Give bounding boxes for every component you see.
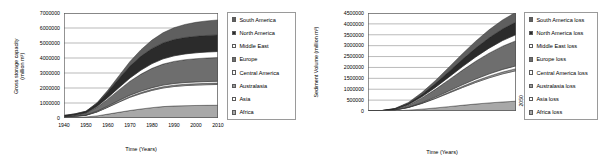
x-tick-label: 2010 <box>206 122 230 128</box>
legend-swatch-icon <box>232 17 236 21</box>
y-tick-label: 3500000 <box>324 32 364 38</box>
legend-item-label: North America loss <box>536 30 583 36</box>
y-tick-label: 1000000 <box>324 86 364 92</box>
figure-two-stacked-area-charts: Gross storage capacity (million m³) 0100… <box>0 0 599 164</box>
y-tick-label: 1000000 <box>20 100 60 106</box>
right-y-axis-label-text: Sediment Volume (million m³) <box>313 12 319 112</box>
y-tick-label: 4000000 <box>20 55 60 61</box>
x-tick-label: 1940 <box>52 122 76 128</box>
left-plot-area <box>64 13 218 118</box>
legend-item-label: Europe <box>239 56 257 62</box>
legend-item-middle-east[interactable]: Middle East <box>228 40 295 53</box>
y-tick-label: 0 <box>324 108 364 114</box>
legend-item-north-america-loss[interactable]: North America loss <box>525 26 597 39</box>
legend-item-label: North America <box>239 30 274 36</box>
legend-swatch-icon <box>529 97 533 101</box>
legend-item-label: Africa <box>239 109 253 115</box>
y-tick-label: 2000000 <box>20 85 60 91</box>
legend-item-label: South America loss <box>536 17 584 23</box>
legend-swatch-icon <box>529 110 533 114</box>
x-tick-label: 1980 <box>140 122 164 128</box>
y-tick-label: 4000000 <box>324 21 364 27</box>
legend-item-label: Middle East <box>239 43 268 49</box>
legend-swatch-icon <box>529 31 533 35</box>
x-tick-label: 1970 <box>118 122 142 128</box>
legend-item-africa[interactable]: Africa <box>228 106 295 119</box>
right-x-axis-label: Time (Years) <box>368 149 516 155</box>
legend-item-label: South America <box>239 17 275 23</box>
legend-swatch-icon <box>232 31 236 35</box>
legend-item-central-america[interactable]: Central America <box>228 66 295 79</box>
legend-item-asia[interactable]: Asia <box>228 93 295 106</box>
y-tick-label: 500000 <box>324 97 364 103</box>
x-tick-label: 1990 <box>162 122 186 128</box>
legend-swatch-icon <box>529 84 533 88</box>
left-y-axis-label-line1: Gross storage capacity <box>13 13 19 118</box>
left-x-axis-label: Time (Years) <box>64 146 218 152</box>
chart-panel-right: Sediment Volume (million m³) 05000001000… <box>300 0 599 164</box>
legend-swatch-icon <box>529 57 533 61</box>
x-tick-label: 1950 <box>74 122 98 128</box>
legend-item-label: Central America <box>239 70 279 76</box>
legend-item-australasia-loss[interactable]: Australasia loss <box>525 79 597 92</box>
legend-item-label: Middle East loss <box>536 43 577 49</box>
legend-item-label: Asia <box>239 96 250 102</box>
y-tick-label: 4500000 <box>324 10 364 16</box>
legend-item-label: Africa loss <box>536 109 562 115</box>
legend-swatch-icon <box>529 70 533 74</box>
legend-item-south-america[interactable]: South America <box>228 13 295 26</box>
legend-swatch-icon <box>232 97 236 101</box>
y-tick-label: 7000000 <box>20 10 60 16</box>
left-legend: South AmericaNorth AmericaMiddle EastEur… <box>227 12 296 120</box>
right-y-axis-label: Sediment Volume (million m³) <box>313 12 319 112</box>
legend-item-australasia[interactable]: Australasia <box>228 79 295 92</box>
right-plot-area <box>368 13 516 111</box>
y-tick-label: 3000000 <box>324 42 364 48</box>
y-tick-label: 1500000 <box>324 75 364 81</box>
legend-item-north-america[interactable]: North America <box>228 26 295 39</box>
legend-item-asia-loss[interactable]: Asia loss <box>525 93 597 106</box>
legend-item-label: Australasia <box>239 83 267 89</box>
right-legend: South America lossNorth America lossMidd… <box>524 12 598 120</box>
y-tick-label: 0 <box>20 115 60 121</box>
legend-item-label: Central America loss <box>536 70 587 76</box>
legend-item-africa-loss[interactable]: Africa loss <box>525 106 597 119</box>
legend-item-europe-loss[interactable]: Europe loss <box>525 53 597 66</box>
x-tick-label: 1960 <box>96 122 120 128</box>
legend-swatch-icon <box>232 84 236 88</box>
legend-item-south-america-loss[interactable]: South America loss <box>525 13 597 26</box>
y-tick-label: 2500000 <box>324 53 364 59</box>
legend-item-europe[interactable]: Europe <box>228 53 295 66</box>
legend-item-label: Europe loss <box>536 56 566 62</box>
y-tick-label: 2000000 <box>324 64 364 70</box>
legend-item-label: Australasia loss <box>536 83 575 89</box>
y-tick-label: 6000000 <box>20 25 60 31</box>
legend-swatch-icon <box>232 110 236 114</box>
legend-item-label: Asia loss <box>536 96 558 102</box>
legend-swatch-icon <box>529 17 533 21</box>
x-tick-label: 2000 <box>184 122 208 128</box>
legend-item-central-america-loss[interactable]: Central America loss <box>525 66 597 79</box>
y-tick-label: 5000000 <box>20 40 60 46</box>
legend-swatch-icon <box>232 70 236 74</box>
y-tick-label: 3000000 <box>20 70 60 76</box>
legend-swatch-icon <box>232 44 236 48</box>
chart-panel-left: Gross storage capacity (million m³) 0100… <box>0 0 300 164</box>
legend-item-middle-east-loss[interactable]: Middle East loss <box>525 40 597 53</box>
legend-swatch-icon <box>529 44 533 48</box>
legend-swatch-icon <box>232 57 236 61</box>
